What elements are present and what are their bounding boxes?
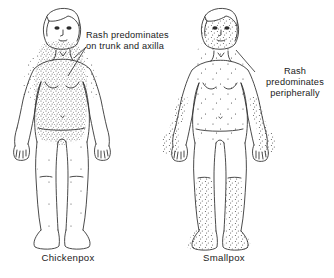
annotation-smallpox: Rash predominates peripherally	[258, 66, 332, 100]
caption-chickenpox: Chickenpox	[12, 252, 124, 263]
smallpox-figure	[158, 8, 280, 254]
rash-distribution-figure: Rash predominates on trunk and axilla Ra…	[0, 0, 334, 278]
chickenpox-rash-stippling	[15, 35, 110, 233]
annotation-chickenpox: Rash predominates on trunk and axilla	[86, 30, 169, 52]
caption-smallpox: Smallpox	[168, 252, 280, 263]
